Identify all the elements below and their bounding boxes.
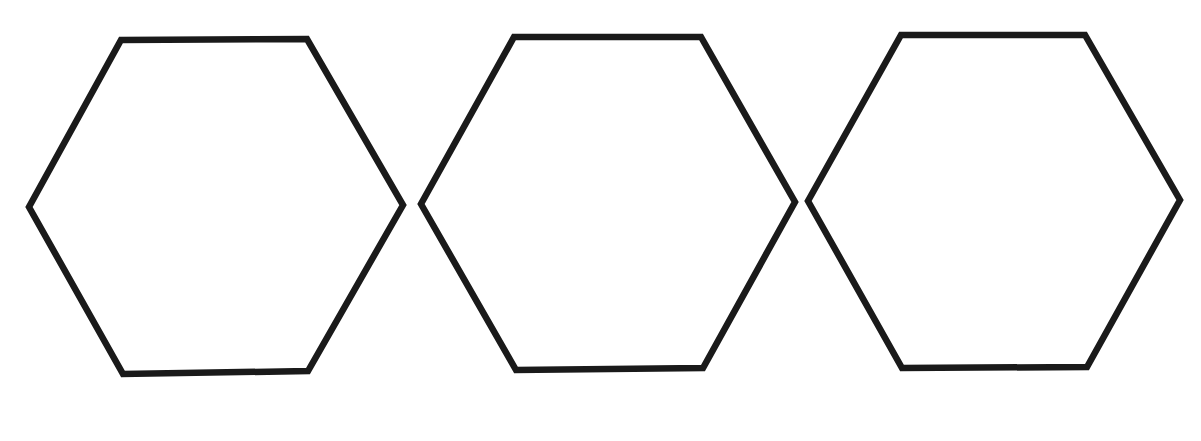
hexagon-2 xyxy=(421,37,795,370)
hexagon-3 xyxy=(808,35,1180,368)
hexagon-diagram xyxy=(0,0,1201,441)
hexagon-1 xyxy=(29,39,403,374)
diagram-canvas xyxy=(0,0,1201,441)
